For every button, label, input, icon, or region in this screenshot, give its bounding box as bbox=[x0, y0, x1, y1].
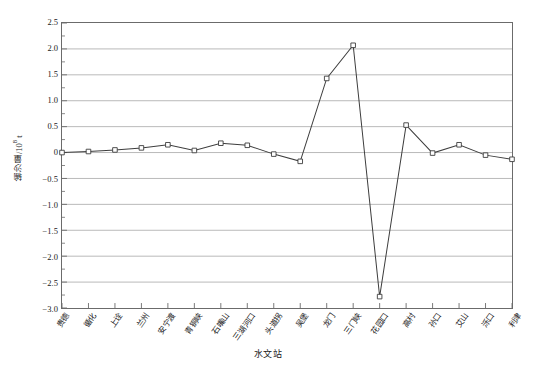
x-axis-tick-label-text: 艾山 bbox=[454, 311, 471, 329]
y-axis-tick-label: −2.0 bbox=[24, 252, 58, 261]
x-axis-tick-label: 利津 bbox=[516, 298, 533, 316]
x-axis-tick-label-text: 孙口 bbox=[427, 311, 444, 329]
data-point-marker bbox=[192, 148, 197, 153]
x-axis-tick-label-text: 高村 bbox=[400, 311, 417, 329]
data-point-marker bbox=[166, 142, 171, 147]
data-point-marker bbox=[298, 159, 303, 164]
chart-figure: 输沙量/108 t 2.52.01.51.00.50−0.5−1.0−1.5−2… bbox=[0, 0, 536, 373]
x-axis-tick-label-text: 头道拐 bbox=[263, 311, 284, 336]
data-point-marker bbox=[113, 148, 118, 153]
data-point-marker bbox=[324, 76, 329, 81]
data-point-marker bbox=[86, 149, 91, 154]
data-point-marker bbox=[219, 141, 224, 146]
x-axis-tick-label-text: 兰州 bbox=[135, 311, 152, 329]
y-axis-tick-label: 0 bbox=[24, 148, 58, 157]
y-axis-tick-label: −3.0 bbox=[24, 305, 58, 314]
y-axis-tick-label: −1.5 bbox=[24, 226, 58, 235]
y-axis-exponent: 8 bbox=[11, 140, 18, 143]
x-axis-tick-label-text: 循化 bbox=[81, 311, 98, 329]
data-point-marker bbox=[139, 146, 144, 151]
data-point-marker bbox=[510, 157, 515, 162]
y-axis-tick-label: −0.5 bbox=[24, 174, 58, 183]
data-series-line bbox=[62, 23, 512, 308]
data-point-marker bbox=[351, 43, 356, 48]
x-axis-tick-label-text: 利津 bbox=[507, 311, 524, 329]
data-point-marker bbox=[271, 152, 276, 157]
y-axis-tick-label: 2.5 bbox=[24, 18, 58, 27]
data-point-marker bbox=[404, 123, 409, 128]
data-point-marker bbox=[457, 142, 462, 147]
x-axis-tick-label-text: 花园口 bbox=[369, 311, 390, 336]
y-axis-tick-label: 2.0 bbox=[24, 44, 58, 53]
x-axis-tick-label-text: 泺口 bbox=[480, 311, 497, 329]
x-axis-tick-label-text: 石嘴山 bbox=[210, 311, 231, 336]
data-point-marker bbox=[60, 150, 65, 155]
y-axis-tick-label: 1.0 bbox=[24, 96, 58, 105]
y-axis-tick-label: 0.5 bbox=[24, 122, 58, 131]
data-point-marker bbox=[483, 153, 488, 158]
data-point-marker bbox=[377, 294, 382, 299]
y-axis-tick-label: −1.0 bbox=[24, 200, 58, 209]
plot-area bbox=[61, 22, 513, 309]
data-point-marker bbox=[430, 151, 435, 156]
x-axis-tick-label-text: 三湖河口 bbox=[232, 311, 258, 342]
x-axis-tick-label-text: 三门峡 bbox=[343, 311, 364, 336]
x-axis-tick-label-text: 上诠 bbox=[108, 311, 125, 329]
data-point-marker bbox=[245, 143, 250, 148]
x-axis-tick-label-text: 青铜峡 bbox=[183, 311, 204, 336]
x-axis-tick-label-text: 吴堡 bbox=[294, 311, 311, 329]
x-axis-tick-label-text: 安宁渡 bbox=[157, 311, 178, 336]
y-axis-tick-label: 1.5 bbox=[24, 70, 58, 79]
y-axis-tick-labels: 2.52.01.51.00.50−0.5−1.0−1.5−2.0−2.5−3.0 bbox=[22, 0, 58, 373]
y-axis-tick-label: −2.5 bbox=[24, 278, 58, 287]
x-axis-title: 水文站 bbox=[0, 347, 536, 360]
x-axis-tick-label-text: 龙门 bbox=[321, 311, 338, 329]
